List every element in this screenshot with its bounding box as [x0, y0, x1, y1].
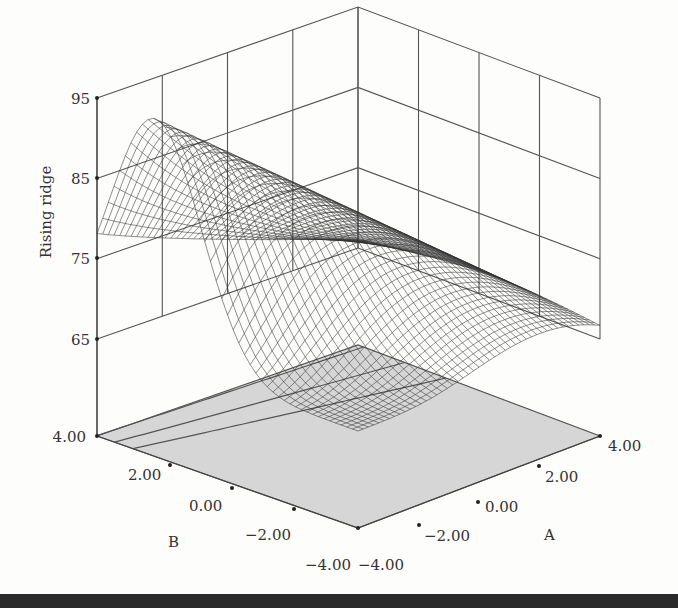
b-tick-2: 2.00 — [128, 466, 161, 484]
b-tick-4: 4.00 — [53, 428, 86, 446]
z-tick-65: 65 — [71, 331, 90, 349]
b-tick-m4: −4.00 — [305, 556, 351, 574]
rising-ridge-surface-chart: 95 85 75 65 Rising ridge 4.00 2.00 0.00 … — [0, 0, 678, 608]
z-tick-85: 85 — [71, 170, 90, 188]
b-tick-m2: −2.00 — [245, 526, 291, 544]
a-tick-2: 2.00 — [545, 468, 578, 486]
floor-plane — [97, 345, 600, 528]
b-axis-label: B — [168, 533, 179, 551]
a-tick-m2: −2.00 — [424, 527, 470, 545]
b-tick-0: 0.00 — [189, 497, 222, 515]
a-axis-label: A — [543, 526, 555, 544]
a-tick-4: 4.00 — [608, 437, 641, 455]
a-tick-0: 0.00 — [485, 498, 518, 516]
z-tick-75: 75 — [71, 250, 90, 268]
z-tick-95: 95 — [71, 90, 90, 108]
z-axis-label: Rising ridge — [37, 166, 55, 259]
surface-mesh — [97, 118, 600, 431]
page-bottom-rule — [0, 594, 678, 608]
a-tick-m4: −4.00 — [358, 556, 404, 574]
